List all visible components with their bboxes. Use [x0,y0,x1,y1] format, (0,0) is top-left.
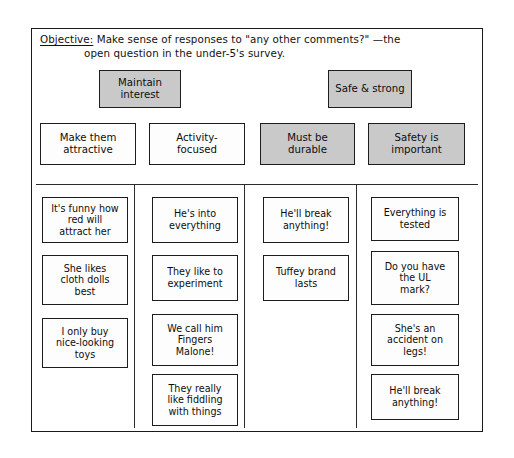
objective-text-2: open question in the under-5's survey. [40,47,470,61]
note-card[interactable]: She likes cloth dolls best [42,255,128,305]
category-card-make-them-attractive[interactable]: Make them attractive [40,123,136,165]
column-header-divider [36,184,478,185]
objective-line-1: Objective: Make sense of responses to "a… [40,33,470,47]
note-card[interactable]: They like to experiment [152,255,238,301]
category-card-label: Must be durable [287,132,328,157]
note-card-label: He's into everything [169,208,221,231]
category-card-must-be-durable[interactable]: Must be durable [260,123,355,165]
note-card[interactable]: Everything is tested [371,197,459,241]
note-card[interactable]: She's an accident on legs! [371,314,459,366]
objective-text-1: Make sense of responses to "any other co… [93,33,400,45]
note-card-label: Everything is tested [384,207,447,230]
note-card[interactable]: He'll break anything! [371,374,459,420]
note-card-label: He'll break anything! [280,208,331,231]
note-card[interactable]: They really like fiddling with things [152,374,238,426]
note-card-label: Tuffey brand lasts [276,266,336,289]
theme-card-label: Maintain interest [118,77,162,102]
note-card[interactable]: Do you have the UL mark? [371,251,459,305]
category-card-label: Make them attractive [60,132,117,157]
column-divider-3 [356,185,357,428]
note-card-label: I only buy nice-looking toys [56,326,114,361]
note-card[interactable]: He'll break anything! [263,197,349,243]
note-card-label: He'll break anything! [389,385,440,408]
category-card-label: Activity- focused [176,132,218,157]
category-card-activity-focused[interactable]: Activity- focused [149,123,245,165]
note-card[interactable]: We call him Fingers Malone! [152,314,238,366]
theme-card-safe-and-strong[interactable]: Safe & strong [328,70,412,108]
note-card-label: She likes cloth dolls best [61,263,110,298]
objective-block: Objective: Make sense of responses to "a… [40,33,470,60]
category-card-label: Safety is important [391,132,441,157]
column-divider-2 [244,185,245,428]
theme-card-maintain-interest[interactable]: Maintain interest [99,70,181,108]
note-card-label: They like to experiment [167,266,223,289]
category-card-safety-is-important[interactable]: Safety is important [368,123,465,165]
note-card-label: She's an accident on legs! [387,323,443,358]
theme-card-label: Safe & strong [335,83,404,96]
note-card-label: Do you have the UL mark? [385,261,446,296]
note-card[interactable]: It's funny how red will attract her [42,197,128,243]
note-card[interactable]: He's into everything [152,197,238,243]
affinity-diagram-board: Objective: Make sense of responses to "a… [31,28,483,432]
column-divider-1 [134,185,135,428]
note-card[interactable]: I only buy nice-looking toys [42,318,128,368]
note-card[interactable]: Tuffey brand lasts [263,255,349,301]
note-card-label: It's funny how red will attract her [51,203,118,238]
note-card-label: We call him Fingers Malone! [167,323,223,358]
objective-label: Objective: [40,33,93,45]
note-card-label: They really like fiddling with things [167,383,222,418]
